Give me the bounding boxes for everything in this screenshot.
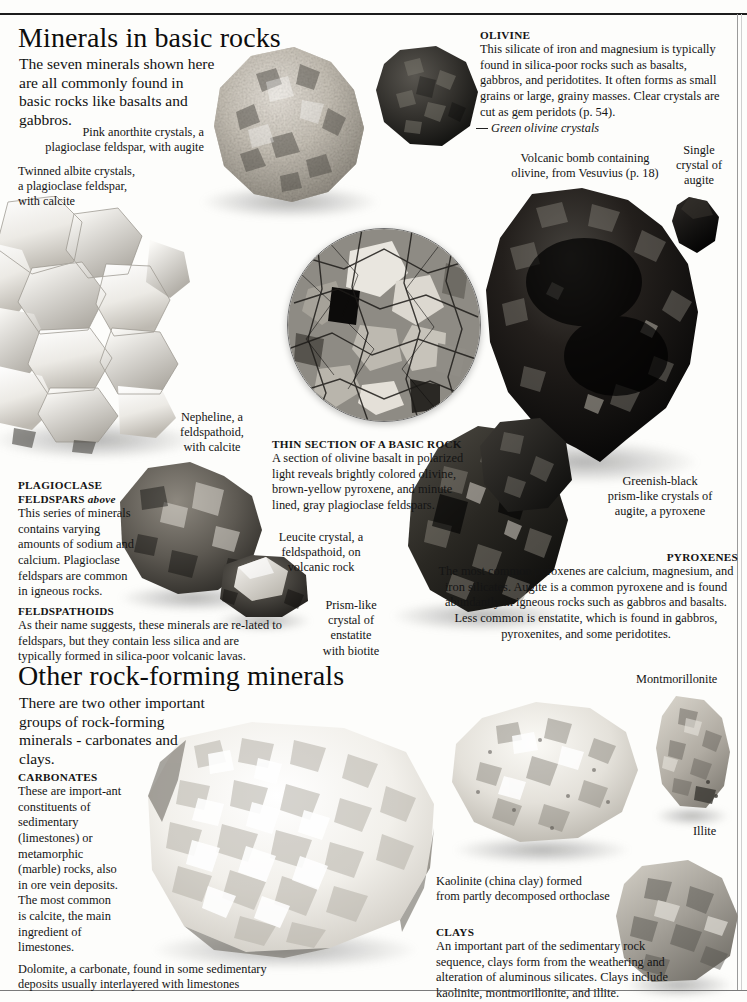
page-title-basic-rocks: Minerals in basic rocks bbox=[18, 22, 438, 54]
info-block-thin-section: THIN SECTION OF A BASIC ROCK A section o… bbox=[272, 437, 472, 514]
caption-anorthite: Pink anorthite crystals, a plagioclase f… bbox=[18, 125, 204, 155]
caption-albite: Twinned albite crystals, a plagioclase f… bbox=[18, 164, 198, 210]
info-title-clays: CLAYS bbox=[436, 925, 686, 939]
caption-enstatite: Prism-like crystal of enstatite with bio… bbox=[308, 598, 394, 659]
caption-illite: Illite bbox=[693, 824, 743, 839]
info-title-pyroxenes: PYROXENES bbox=[434, 550, 738, 564]
caption-kaolinite: Kaolinite (china clay) formed from partl… bbox=[436, 874, 666, 904]
montmorillonite-specimen bbox=[650, 694, 738, 814]
pink-anorthite-specimen bbox=[196, 42, 388, 210]
leader-line-olivine bbox=[476, 128, 488, 129]
info-title-carbonates: CARBONATES bbox=[18, 770, 122, 784]
info-title-thin-section: THIN SECTION OF A BASIC ROCK bbox=[272, 437, 472, 451]
caption-volcanic-bomb: Volcanic bomb containing olivine, from V… bbox=[490, 151, 680, 181]
info-block-feldspathoids: FELDSPATHOIDS As their name suggests, th… bbox=[18, 604, 284, 665]
info-title-plagioclase: PLAGIOCLASE FELDSPARS above bbox=[18, 478, 138, 506]
info-block-olivine: OLIVINE This silicate of iron and magnes… bbox=[480, 28, 730, 120]
caption-augite-prisms: Greenish-black prism-like crystals of au… bbox=[580, 474, 740, 520]
caption-nepheline: Nepheline, a feldspathoid, with calcite bbox=[150, 410, 274, 456]
intro-other-minerals: There are two other important groups of … bbox=[19, 694, 209, 768]
single-augite-crystal bbox=[669, 195, 725, 257]
info-block-carbonates: CARBONATES These are import-ant constitu… bbox=[18, 770, 122, 956]
info-body-pyroxenes: The most common pyroxenes are calcium, m… bbox=[434, 564, 738, 642]
book-page: Minerals in basic rocks The seven minera… bbox=[0, 0, 747, 1002]
info-block-plagioclase: PLAGIOCLASE FELDSPARS above This series … bbox=[18, 478, 138, 600]
page-title-other-minerals: Other rock-forming minerals bbox=[18, 660, 458, 692]
info-body-olivine: This silicate of iron and magnesium is t… bbox=[480, 42, 730, 120]
intro-basic-rocks: The seven minerals shown here are all co… bbox=[19, 55, 215, 129]
info-body-thin-section: A section of olivine basalt in polarized… bbox=[272, 451, 472, 514]
caption-single-augite: Single crystal of augite bbox=[660, 143, 738, 189]
caption-green-olivine: Green olivine crystals bbox=[491, 121, 691, 136]
caption-montmorillonite: Montmorillonite bbox=[636, 672, 746, 687]
right-frame-line-outer bbox=[741, 14, 742, 990]
info-title-olivine: OLIVINE bbox=[480, 28, 730, 42]
info-body-clays: An important part of the sedimentary roc… bbox=[436, 939, 686, 1002]
info-body-carbonates: These are import-ant constituents of sed… bbox=[18, 784, 122, 956]
thin-section-photomicrograph bbox=[287, 228, 481, 422]
info-body-plagioclase: This series of minerals contains varying… bbox=[18, 506, 138, 600]
augite-prism-specimen bbox=[478, 418, 574, 514]
caption-dolomite: Dolomite, a carbonate, found in some sed… bbox=[18, 962, 398, 992]
info-title-feldspathoids: FELDSPATHOIDS bbox=[18, 604, 284, 618]
kaolinite-specimen bbox=[444, 700, 644, 848]
info-block-pyroxenes: PYROXENES The most common pyroxenes are … bbox=[434, 550, 738, 642]
info-title-plagioclase-suffix: above bbox=[88, 493, 116, 505]
info-block-clays: CLAYS An important part of the sedimenta… bbox=[436, 925, 686, 1002]
info-body-feldspathoids: As their name suggests, these minerals a… bbox=[18, 618, 284, 665]
caption-leucite: Leucite crystal, a feldspathoid, on volc… bbox=[254, 530, 388, 576]
top-rule bbox=[0, 13, 747, 15]
green-olivine-specimen bbox=[370, 44, 488, 154]
